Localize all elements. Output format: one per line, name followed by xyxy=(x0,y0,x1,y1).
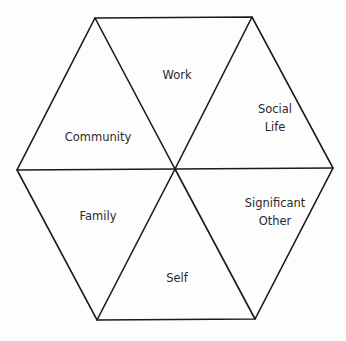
label-line: Family xyxy=(79,209,116,223)
life-hexagon-diagram: WorkSocialLifeSignificantOtherSelfFamily… xyxy=(0,0,346,341)
label-line: Work xyxy=(162,68,191,82)
label-line: Community xyxy=(65,130,132,144)
label-line: Self xyxy=(166,271,189,285)
label-line: Life xyxy=(265,120,286,134)
label-line: Significant xyxy=(245,196,306,210)
label-line: Other xyxy=(259,214,292,228)
spoke xyxy=(175,168,333,169)
label-self: Self xyxy=(166,271,189,285)
label-family: Family xyxy=(79,209,116,223)
label-work: Work xyxy=(162,68,191,82)
label-line: Social xyxy=(258,102,292,116)
spoke xyxy=(17,169,175,170)
label-community: Community xyxy=(65,130,132,144)
